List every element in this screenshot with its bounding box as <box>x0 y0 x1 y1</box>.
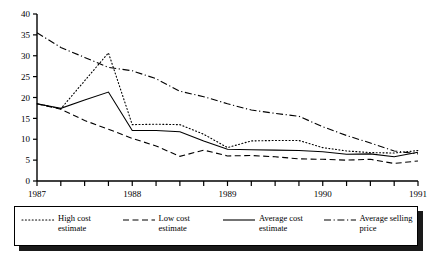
series-line-high-cost-estimate <box>37 53 418 153</box>
y-tick-label: 35 <box>21 30 31 40</box>
x-tick-label: 1987 <box>28 189 47 199</box>
chart-legend: High cost estimateLow cost estimateAvera… <box>14 206 418 246</box>
x-tick-label: 1989 <box>219 189 238 199</box>
legend-item[interactable]: Average cost estimate <box>216 213 317 233</box>
y-tick-label: 10 <box>21 134 31 144</box>
x-tick-label: 1990 <box>314 189 333 199</box>
x-tick-label: 1991 <box>409 189 427 199</box>
legend-swatch-dashed <box>122 214 156 226</box>
legend-label: Low cost estimate <box>159 213 190 233</box>
legend-items: High cost estimateLow cost estimateAvera… <box>15 207 417 245</box>
chart-page: 0510152025303540 19871988198919901991 Hi… <box>0 0 443 259</box>
legend-item[interactable]: Low cost estimate <box>116 213 217 233</box>
legend-label: High cost estimate <box>58 213 91 233</box>
x-axis: 19871988198919901991 <box>28 181 427 199</box>
legend-swatch-solid <box>222 214 256 226</box>
y-tick-label: 15 <box>21 114 31 124</box>
line-chart: 0510152025303540 19871988198919901991 <box>0 0 443 200</box>
data-series-group <box>37 33 418 164</box>
y-tick-label: 30 <box>21 51 31 61</box>
series-line-average-selling-price <box>37 33 418 154</box>
legend-item[interactable]: High cost estimate <box>15 213 116 233</box>
y-tick-label: 25 <box>21 72 31 82</box>
y-tick-label: 0 <box>26 176 31 186</box>
legend-swatch-dotted <box>21 214 55 226</box>
chart-plot-area: 0510152025303540 19871988198919901991 <box>0 0 443 200</box>
legend-swatch-dashdot <box>323 214 357 226</box>
x-tick-label: 1988 <box>123 189 142 199</box>
legend-label: Average selling price <box>360 213 413 233</box>
y-axis: 0510152025303540 <box>21 9 37 186</box>
legend-label: Average cost estimate <box>259 213 303 233</box>
y-tick-label: 40 <box>21 9 31 19</box>
y-tick-label: 5 <box>26 155 31 165</box>
legend-item[interactable]: Average selling price <box>317 213 418 233</box>
y-tick-label: 20 <box>21 93 31 103</box>
